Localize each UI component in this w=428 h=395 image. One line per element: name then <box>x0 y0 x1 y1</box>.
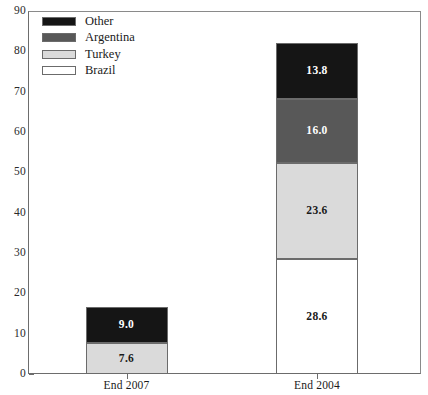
bar-segment-value: 23.6 <box>306 205 327 217</box>
legend-item-other[interactable]: Other <box>42 14 113 28</box>
y-axis-tick-label: 30 <box>0 247 26 259</box>
legend-item-turkey[interactable]: Turkey <box>42 47 121 61</box>
bar-end-2007[interactable]: 7.69.0 <box>86 307 168 374</box>
bar-segment-other[interactable]: 13.8 <box>276 43 358 99</box>
y-axis-tick-label: 0 <box>0 368 26 380</box>
y-axis-tick-label: 70 <box>0 86 26 98</box>
bar-segment-brazil[interactable]: 28.6 <box>276 259 358 374</box>
y-axis-tick-label: 40 <box>0 207 26 219</box>
y-axis-tick-label: 60 <box>0 126 26 138</box>
bar-segment-value: 7.6 <box>119 353 134 365</box>
legend-swatch-other <box>42 17 76 26</box>
y-axis-tick-label: 80 <box>0 45 26 57</box>
legend-label: Other <box>85 15 113 28</box>
stacked-bar-chart: 0102030405060708090 7.69.028.623.616.013… <box>0 0 428 395</box>
legend-item-argentina[interactable]: Argentina <box>42 31 135 45</box>
legend-swatch-brazil <box>42 66 76 75</box>
legend-swatch-argentina <box>42 33 76 42</box>
legend-item-brazil[interactable]: Brazil <box>42 64 116 78</box>
bar-segment-turkey[interactable]: 7.6 <box>86 343 168 374</box>
x-axis-tick-label: End 2004 <box>257 379 377 392</box>
bar-segment-value: 13.8 <box>306 65 327 77</box>
legend-label: Brazil <box>85 64 116 77</box>
legend-label: Argentina <box>85 31 135 44</box>
bar-segment-argentina[interactable]: 16.0 <box>276 99 358 164</box>
y-axis-tick-label: 10 <box>0 328 26 340</box>
bar-segment-other[interactable]: 9.0 <box>86 307 168 343</box>
bar-segment-value: 16.0 <box>306 125 327 137</box>
legend-swatch-turkey <box>42 50 76 59</box>
y-axis-tick-label: 90 <box>0 5 26 17</box>
legend-label: Turkey <box>85 48 121 61</box>
bar-segment-value: 28.6 <box>306 311 327 323</box>
bar-segment-turkey[interactable]: 23.6 <box>276 163 358 258</box>
x-axis-tick-label: End 2007 <box>67 379 187 392</box>
y-axis-tick-mark <box>29 374 34 375</box>
bar-end-2004[interactable]: 28.623.616.013.8 <box>276 43 358 374</box>
y-axis-tick-label: 20 <box>0 287 26 299</box>
y-axis-tick-label: 50 <box>0 166 26 178</box>
bar-segment-value: 9.0 <box>119 319 134 331</box>
